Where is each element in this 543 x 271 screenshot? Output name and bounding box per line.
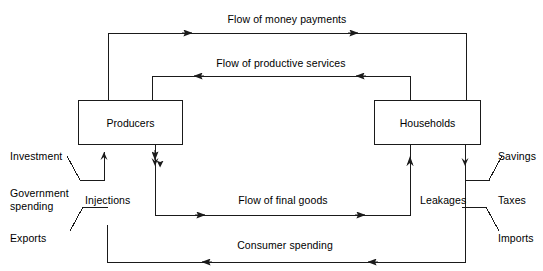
injection-item-exports: Exports	[10, 232, 46, 244]
flow-label-final-goods: Flow of final goods	[238, 194, 327, 206]
node-households: Households	[374, 100, 481, 145]
circular-flow-diagram: Producers Households Flow of money payme…	[0, 0, 543, 271]
leakage-item-taxes: Taxes	[498, 194, 526, 206]
node-producers: Producers	[78, 100, 183, 145]
flow-label-productive-services: Flow of productive services	[216, 57, 345, 69]
flow-path-productive-services	[152, 76, 410, 100]
leakages-group-label: Leakages	[420, 194, 466, 206]
leakage-item-imports: Imports	[498, 232, 534, 244]
leakages-connector	[462, 156, 502, 231]
node-households-label: Households	[400, 117, 455, 129]
leakage-item-savings: Savings	[498, 150, 536, 162]
injections-connector	[67, 152, 107, 231]
flow-label-money-payments: Flow of money payments	[228, 13, 347, 25]
node-producers-label: Producers	[107, 117, 155, 129]
injection-item-investment: Investment	[10, 150, 62, 162]
flow-label-consumer-spending: Consumer spending	[237, 239, 333, 251]
injection-item-government-spending: Government spending	[10, 187, 69, 213]
injections-group-label: Injections	[85, 194, 130, 206]
